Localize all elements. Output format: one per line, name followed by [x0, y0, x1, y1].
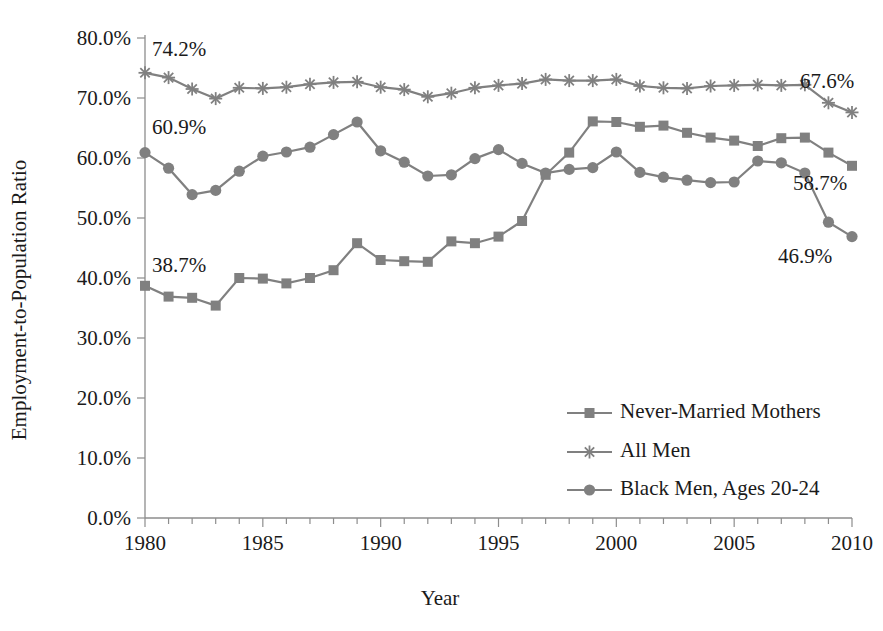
- value-annotation: 74.2%: [152, 37, 206, 61]
- series-point-circle: [752, 155, 763, 166]
- legend-label-all-men: All Men: [620, 438, 691, 462]
- y-tick-label: 80.0%: [77, 26, 131, 50]
- series-point-circle: [846, 231, 857, 242]
- chart-container: 0.0%10.0%20.0%30.0%40.0%50.0%60.0%70.0%8…: [0, 0, 883, 631]
- series-point-square: [823, 148, 833, 158]
- series-point-square: [164, 292, 174, 302]
- series-point-circle: [611, 146, 622, 157]
- x-tick-label: 1985: [242, 531, 284, 555]
- series-point-circle: [446, 169, 457, 180]
- y-tick-label: 20.0%: [77, 386, 131, 410]
- series-point-circle: [516, 158, 527, 169]
- legend-marker-circle: [584, 484, 595, 495]
- value-annotation: 58.7%: [793, 171, 847, 195]
- y-axis-title: Employment-to-Population Ratio: [7, 160, 31, 441]
- series-point-square: [682, 128, 692, 138]
- y-tick-label: 10.0%: [77, 446, 131, 470]
- legend-marker-square: [585, 408, 595, 418]
- series-point-circle: [234, 166, 245, 177]
- legend-label-never-married-mothers: Never-Married Mothers: [620, 399, 821, 423]
- x-tick-label: 1995: [478, 531, 520, 555]
- series-point-square: [211, 301, 221, 311]
- series-point-circle: [540, 167, 551, 178]
- y-tick-label: 50.0%: [77, 206, 131, 230]
- series-point-circle: [139, 147, 150, 158]
- series-point-square: [234, 273, 244, 283]
- series-point-square: [658, 121, 668, 131]
- series-point-circle: [634, 167, 645, 178]
- x-tick-label: 1990: [360, 531, 402, 555]
- series-point-square: [635, 122, 645, 132]
- line-chart: 0.0%10.0%20.0%30.0%40.0%50.0%60.0%70.0%8…: [0, 0, 883, 631]
- series-point-circle: [587, 162, 598, 173]
- value-annotation: 46.9%: [778, 244, 832, 268]
- x-tick-label: 2005: [713, 531, 755, 555]
- series-point-circle: [210, 185, 221, 196]
- value-annotation: 38.7%: [152, 253, 206, 277]
- series-point-circle: [705, 177, 716, 188]
- series-point-square: [847, 161, 857, 171]
- x-tick-label: 1980: [124, 531, 166, 555]
- series-point-circle: [352, 116, 363, 127]
- series-point-square: [470, 238, 480, 248]
- x-tick-label: 2000: [595, 531, 637, 555]
- y-tick-label: 60.0%: [77, 146, 131, 170]
- series-point-square: [258, 274, 268, 284]
- series-point-circle: [729, 176, 740, 187]
- series-point-circle: [399, 157, 410, 168]
- series-point-square: [281, 278, 291, 288]
- series-point-square: [564, 148, 574, 158]
- series-point-circle: [681, 175, 692, 186]
- series-point-square: [352, 238, 362, 248]
- series-line-all-men: [145, 73, 852, 113]
- series-point-circle: [281, 146, 292, 157]
- series-point-circle: [257, 151, 268, 162]
- y-tick-label: 40.0%: [77, 266, 131, 290]
- series-point-circle: [304, 142, 315, 153]
- series-point-circle: [469, 153, 480, 164]
- series-point-circle: [493, 144, 504, 155]
- series-point-square: [423, 257, 433, 267]
- series-point-square: [446, 236, 456, 246]
- series-point-square: [140, 281, 150, 291]
- series-point-circle: [823, 217, 834, 228]
- series-point-circle: [776, 157, 787, 168]
- series-point-square: [517, 216, 527, 226]
- series-point-square: [611, 117, 621, 127]
- series-point-square: [305, 273, 315, 283]
- series-point-square: [187, 293, 197, 303]
- y-tick-label: 0.0%: [87, 506, 131, 530]
- y-tick-label: 70.0%: [77, 86, 131, 110]
- y-tick-label: 30.0%: [77, 326, 131, 350]
- series-line-black-men-ages-20-24: [145, 122, 852, 237]
- series-point-square: [399, 256, 409, 266]
- legend-label-black-men-ages-20-24: Black Men, Ages 20-24: [620, 476, 820, 500]
- series-point-square: [588, 116, 598, 126]
- series-point-square: [706, 133, 716, 143]
- series-point-square: [729, 136, 739, 146]
- series-point-circle: [163, 163, 174, 174]
- series-point-circle: [187, 189, 198, 200]
- series-point-square: [494, 232, 504, 242]
- value-annotation: 67.6%: [800, 69, 854, 93]
- value-annotation: 60.9%: [152, 115, 206, 139]
- series-point-square: [329, 265, 339, 275]
- x-axis-title: Year: [421, 586, 460, 610]
- series-point-square: [800, 133, 810, 143]
- x-tick-label: 2010: [831, 531, 873, 555]
- series-point-circle: [328, 129, 339, 140]
- series-point-circle: [658, 172, 669, 183]
- series-point-square: [753, 141, 763, 151]
- series-point-circle: [564, 164, 575, 175]
- series-point-square: [776, 133, 786, 143]
- series-point-circle: [375, 145, 386, 156]
- series-point-circle: [422, 170, 433, 181]
- series-point-square: [376, 255, 386, 265]
